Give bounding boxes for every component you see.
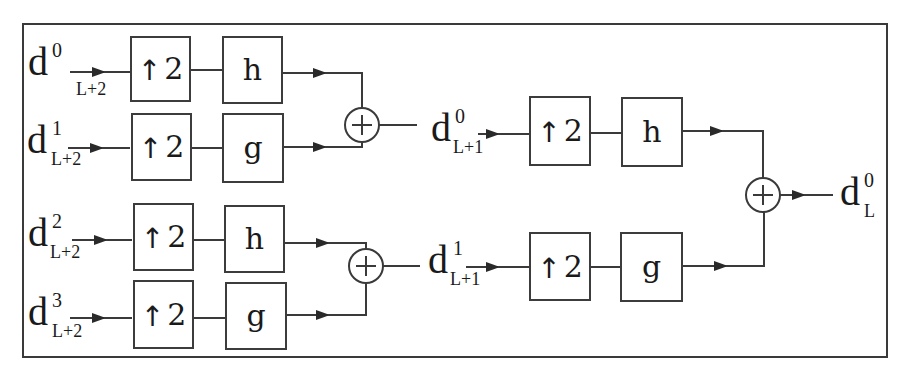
- input-label-d3-L+2: d 3 L+2: [28, 292, 48, 332]
- filter-bank-diagram: d 0 L+2 d 1 L+2 d 2 L+2 d 3 L+2 ↑2 ↑2 ↑2…: [0, 0, 905, 375]
- filter-h-block: h: [224, 205, 285, 273]
- upsample-by-2-block: ↑2: [133, 203, 194, 271]
- input-label-d0-L+2: d 0 L+2: [28, 42, 48, 82]
- up-arrow-icon: ↑: [537, 119, 560, 147]
- filter-g-block: g: [225, 282, 287, 350]
- output-label-d0-L: d 0 L: [840, 172, 860, 212]
- filter-h-block: h: [621, 97, 683, 167]
- upsample-by-2-block: ↑2: [529, 96, 591, 166]
- input-label-d1-L+2: d 1 L+2: [27, 120, 47, 160]
- filter-g-block: g: [222, 113, 284, 183]
- upsample-by-2-block: ↑2: [130, 36, 191, 102]
- up-arrow-icon: ↑: [141, 303, 164, 331]
- up-arrow-icon: ↑: [537, 255, 560, 283]
- upsample-by-2-block: ↑2: [133, 280, 194, 349]
- up-arrow-icon: ↑: [141, 225, 164, 253]
- upsample-by-2-block: ↑2: [529, 232, 591, 301]
- input-label-d2-L+2: d 2 L+2: [28, 213, 48, 253]
- upsample-by-2-block: ↑2: [131, 113, 192, 181]
- input-label-d1-L+1: d 1 L+1: [428, 240, 448, 280]
- up-arrow-icon: ↑: [139, 135, 162, 163]
- filter-h-block: h: [222, 36, 283, 104]
- input-label-d0-L+1: d 0 L+1: [431, 108, 451, 148]
- filter-g-block: g: [620, 232, 683, 302]
- up-arrow-icon: ↑: [138, 57, 161, 85]
